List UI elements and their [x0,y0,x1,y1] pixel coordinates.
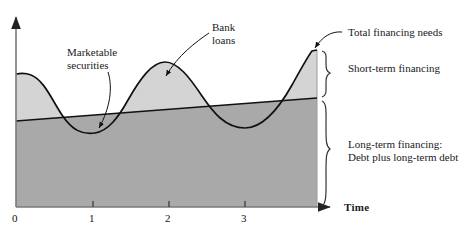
x-tick-label-3: 3 [241,212,247,225]
long-term-brace [322,101,330,206]
bank-loans-label-line1: Bank [212,21,235,34]
long-term-financing-label-line2: Debt plus long-term debt [348,151,458,164]
financing-needs-figure: 0 1 2 3 Time Marketable securities Bank … [0,0,468,235]
short-term-brace [322,51,330,97]
short-term-financing-label: Short-term financing [348,62,440,75]
marketable-securities-label-line1: Marketable [67,46,117,59]
x-tick-label-2: 2 [165,212,171,225]
bank-loans-label-line2: loans [212,34,235,47]
x-tick-label-1: 1 [89,212,95,225]
x-axis-title: Time [344,201,369,214]
total-financing-needs-label: Total financing needs [348,26,443,39]
x-tick-label-0: 0 [12,212,18,225]
marketable-securities-label-line2: securities [67,59,109,72]
long-term-financing-label-line1: Long-term financing: [348,138,442,151]
total-financing-needs-leader [315,32,342,48]
